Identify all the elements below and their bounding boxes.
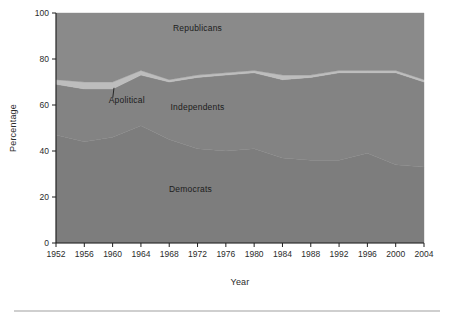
x-tick-label: 2004 — [415, 249, 434, 259]
x-tick-label: 1956 — [75, 249, 94, 259]
stacked-area-bands — [56, 13, 424, 243]
x-tick-label: 1972 — [188, 249, 207, 259]
band-label-independents: Independents — [171, 102, 225, 112]
x-tick-label: 1952 — [47, 249, 66, 259]
y-tick-label: 100 — [35, 8, 49, 18]
band-label-apolitical: Apolitical — [109, 95, 145, 105]
x-tick-label: 1984 — [273, 249, 292, 259]
x-axis-title: Year — [231, 277, 250, 287]
x-tick-label: 2000 — [386, 249, 405, 259]
x-tick-label: 1980 — [245, 249, 264, 259]
band-label-democrats: Democrats — [169, 184, 212, 194]
x-tick-label: 1996 — [358, 249, 377, 259]
band-label-republicans: Republicans — [173, 23, 222, 33]
y-tick-label: 20 — [40, 192, 50, 202]
x-tick-label: 1992 — [330, 249, 349, 259]
y-axis-title: Percentage — [8, 104, 18, 152]
y-tick-label: 80 — [40, 54, 50, 64]
x-tick-label: 1964 — [131, 249, 150, 259]
y-tick-label: 0 — [44, 238, 49, 248]
x-tick-label: 1960 — [103, 249, 122, 259]
x-tick-label: 1988 — [301, 249, 320, 259]
stacked-area-chart-figure: 020406080100 195219561960196419681972197… — [0, 0, 454, 323]
x-tick-label: 1976 — [216, 249, 235, 259]
x-tick-label: 1968 — [160, 249, 179, 259]
chart-svg: 020406080100 195219561960196419681972197… — [0, 0, 454, 323]
y-tick-label: 40 — [40, 146, 50, 156]
y-tick-label: 60 — [40, 100, 50, 110]
